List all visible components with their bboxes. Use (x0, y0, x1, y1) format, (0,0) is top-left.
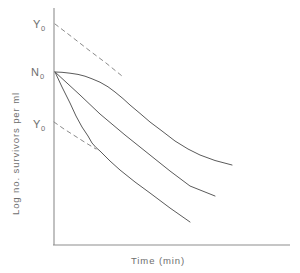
dashed-extrapolation-lower (54, 122, 96, 149)
x-axis-title: Time (min) (131, 255, 185, 266)
curve-shoulder (55, 72, 232, 165)
curve-exponential (55, 72, 215, 196)
label-n0-subscript: 0 (40, 72, 44, 81)
plot-canvas: Y 0 N 0 Y 0 Log no. survivors per ml Tim… (0, 0, 300, 273)
label-n0: N (31, 66, 39, 78)
dashed-extrapolation-upper (55, 24, 122, 76)
extrapolation-group (54, 24, 122, 149)
label-y0-upper-subscript: 0 (41, 24, 45, 33)
curve-biphasic (55, 72, 190, 222)
y-axis-title: Log no. survivors per ml (10, 92, 21, 215)
y-axis-tick-labels: Y 0 N 0 Y 0 (31, 18, 45, 133)
curves-group (55, 72, 232, 222)
label-y0-upper: Y (33, 18, 41, 30)
label-y0-lower: Y (33, 118, 41, 130)
survival-curve-figure: Y 0 N 0 Y 0 Log no. survivors per ml Tim… (0, 0, 300, 273)
label-y0-lower-subscript: 0 (41, 124, 45, 133)
